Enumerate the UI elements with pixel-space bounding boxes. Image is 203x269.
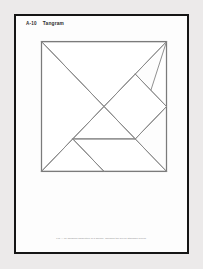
page-frame: A-10 Tangram Large Triangle (top)Large T… <box>14 14 189 254</box>
tangram-svg: Large Triangle (top)Large Triangle (left… <box>39 39 169 174</box>
figure-number: A-10 <box>26 21 37 26</box>
figure-header: A-10 Tangram <box>26 21 64 26</box>
tangram-diagram: Large Triangle (top)Large Triangle (left… <box>39 39 169 174</box>
screenshot-root: A-10 Tangram Large Triangle (top)Large T… <box>0 0 203 269</box>
page-title: Tangram <box>43 21 64 26</box>
figure-caption: Fig. A-10 Tangram dissection of a square… <box>16 237 187 240</box>
page-sheet: A-10 Tangram Large Triangle (top)Large T… <box>16 16 187 252</box>
